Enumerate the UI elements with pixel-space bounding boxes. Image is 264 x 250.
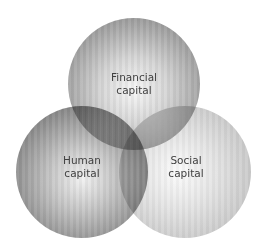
human-capital-label-line2: capital [42, 167, 122, 180]
human-capital-label: Human capital [42, 154, 122, 180]
financial-capital-label-line1: Financial [94, 71, 174, 84]
social-capital-label-line1: Social [146, 154, 226, 167]
financial-capital-label: Financial capital [94, 71, 174, 97]
social-capital-label: Social capital [146, 154, 226, 180]
social-capital-label-line2: capital [146, 167, 226, 180]
venn-diagram: Financial capital Human capital Social c… [0, 0, 264, 250]
human-capital-label-line1: Human [42, 154, 122, 167]
financial-capital-label-line2: capital [94, 84, 174, 97]
